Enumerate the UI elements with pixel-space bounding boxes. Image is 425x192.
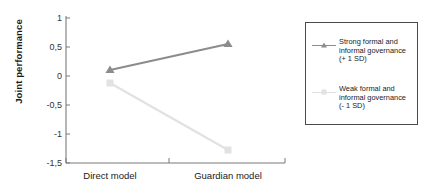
data-point-weak-guardian [225,147,232,154]
data-point-weak-direct [107,80,114,87]
legend-label-strong: Strong formal and informal governance (+… [339,38,419,64]
series-weak-governance [107,80,232,154]
legend-label-weak-line3: (- 1 SD) [339,102,419,111]
square-icon [321,89,327,95]
legend-marker-weak [312,89,336,96]
y-axis-ticks [66,18,70,163]
data-point-strong-guardian [223,40,232,48]
legend-label-weak: Weak formal and informal governance (- 1… [339,85,419,111]
legend-label-strong-line3: (+ 1 SD) [339,55,419,64]
triangle-icon [321,42,327,48]
x-axis-ticks [66,158,285,163]
legend-marker-strong [312,42,336,49]
series-strong-governance [105,40,232,74]
legend: Strong formal and informal governance (+… [305,22,418,125]
interaction-plot: Joint performance 1 0,5 0 -0,5 -1 -1,5 D… [0,0,425,192]
